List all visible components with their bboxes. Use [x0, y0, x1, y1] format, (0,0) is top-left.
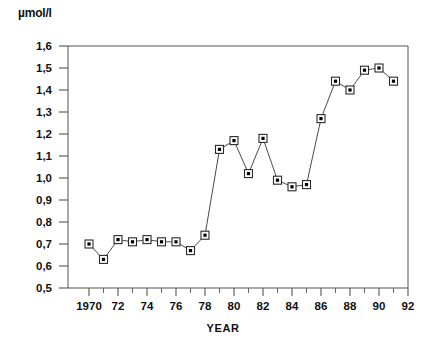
- y-tick-label-1,6: 1,6: [36, 40, 52, 52]
- data-point-1980: [230, 137, 238, 145]
- x-tick-label-82: 82: [257, 300, 270, 312]
- y-tick-label-1,1: 1,1: [36, 150, 53, 162]
- data-point-1979: [216, 145, 224, 153]
- x-tick-label-84: 84: [286, 300, 299, 312]
- data-point-1982: [259, 134, 267, 142]
- data-point-1991: [390, 77, 398, 85]
- data-point-1974: [143, 236, 151, 244]
- y-tick-label-0,7: 0,7: [36, 238, 52, 250]
- y-tick-label-1,3: 1,3: [36, 106, 52, 118]
- x-tick-label-90: 90: [373, 300, 386, 312]
- y-tick-label-0,5: 0,5: [36, 282, 53, 294]
- y-tick-label-0,8: 0,8: [36, 216, 53, 228]
- data-point-1990: [375, 64, 383, 72]
- x-tick-label-80: 80: [228, 300, 241, 312]
- data-point-1984: [288, 183, 296, 191]
- data-series-line-µmol/l: [89, 68, 394, 259]
- data-point-1989: [361, 66, 369, 74]
- y-tick-label-0,6: 0,6: [36, 260, 52, 272]
- x-tick-label-86: 86: [315, 300, 328, 312]
- chart-plot-area: 1,61,51,41,31,21,11,00,90,80,70,60,51970…: [0, 0, 432, 352]
- data-point-1972: [114, 236, 122, 244]
- x-tick-label-76: 76: [170, 300, 183, 312]
- data-point-1975: [158, 238, 166, 246]
- data-point-1971: [100, 255, 108, 263]
- x-tick-label-92: 92: [402, 300, 415, 312]
- x-tick-label-88: 88: [344, 300, 357, 312]
- x-tick-label-74: 74: [141, 300, 154, 312]
- data-point-1973: [129, 238, 137, 246]
- data-point-1970: [85, 240, 93, 248]
- data-point-1976: [172, 238, 180, 246]
- x-tick-label-78: 78: [199, 300, 212, 312]
- x-axis-title: YEAR: [0, 322, 432, 334]
- y-tick-label-1,0: 1,0: [36, 172, 52, 184]
- data-point-1981: [245, 170, 253, 178]
- data-point-1988: [346, 86, 354, 94]
- y-tick-label-1,4: 1,4: [36, 84, 53, 96]
- data-point-1986: [317, 115, 325, 123]
- x-tick-label-72: 72: [112, 300, 125, 312]
- data-point-1977: [187, 247, 195, 255]
- x-tick-label-1970: 1970: [76, 300, 102, 312]
- data-point-1983: [274, 176, 282, 184]
- data-point-1985: [303, 181, 311, 189]
- data-point-1987: [332, 77, 340, 85]
- y-tick-label-0,9: 0,9: [36, 194, 52, 206]
- y-tick-label-1,2: 1,2: [36, 128, 52, 140]
- data-point-1978: [201, 231, 209, 239]
- y-tick-label-1,5: 1,5: [36, 62, 53, 74]
- chart-container: µmol/l 1,61,51,41,31,21,11,00,90,80,70,6…: [0, 0, 432, 352]
